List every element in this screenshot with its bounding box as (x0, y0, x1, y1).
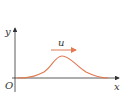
x-axis-label: x (114, 81, 120, 92)
velocity-label: u (58, 37, 64, 48)
y-axis-label: y (4, 26, 11, 37)
wave-pulse-diagram: u y x O (0, 0, 127, 104)
origin-label: O (5, 80, 13, 91)
wave-pulse-curve (17, 56, 108, 78)
